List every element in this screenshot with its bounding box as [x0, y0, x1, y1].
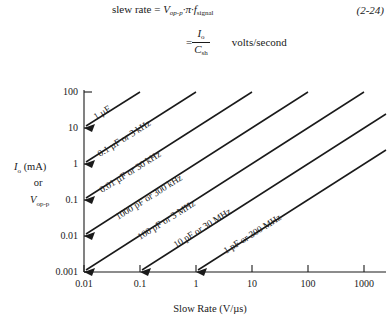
y-axis-ticks [84, 92, 92, 272]
curve-1uF: 1 µF [84, 92, 140, 132]
y-tick-label: 0.01 [61, 230, 79, 241]
voltage-subscript: op-p [170, 9, 183, 17]
x-axis-title: Slow Rate (V/µs) [173, 303, 247, 315]
units-label: volts/second [232, 36, 287, 48]
fraction-numerator: Io [195, 28, 206, 42]
equals-sign-1: = [154, 3, 160, 15]
figure-page: slew rate = Vop-p·π·fsignal = Io Csh vol… [0, 0, 392, 318]
frequency-subscript: signal [197, 9, 214, 17]
equation-line-2: = Io Csh volts/second [186, 28, 287, 57]
y-tick-label: 0.001 [56, 266, 79, 277]
chart-svg: 100 10 1 0.1 0.01 0.001 0.01 0.1 1 10 10… [0, 62, 392, 318]
x-tick-label: 10 [247, 278, 257, 289]
slew-rate-label: slew rate [112, 3, 151, 15]
x-tick-labels: 0.01 0.1 1 10 100 1000 [75, 278, 374, 289]
x-tick-label: 100 [301, 278, 316, 289]
y-axis-title-line-3: Vop-p [30, 194, 50, 208]
y-tick-label: 0.1 [66, 194, 79, 205]
curve-0.1uF: 0.1 µF or 3 kHz [84, 92, 196, 168]
equation-line-1: slew rate = Vop-p·π·fsignal [112, 3, 214, 17]
y-tick-labels: 100 10 1 0.1 0.01 0.001 [56, 86, 79, 277]
pi-factor: ·π· [183, 3, 194, 15]
slew-rate-chart: 100 10 1 0.1 0.01 0.001 0.01 0.1 1 10 10… [0, 62, 392, 318]
curve-label: 0.1 µF or 3 kHz [96, 118, 153, 159]
x-tick-label: 0.01 [75, 278, 93, 289]
current-over-capacitance-fraction: Io Csh [192, 28, 210, 57]
equation-block: slew rate = Vop-p·π·fsignal = Io Csh vol… [0, 0, 392, 62]
curve-10pF: 10 pF or 30 MHz [140, 114, 386, 276]
equation-number: (2-24) [357, 4, 385, 16]
x-tick-label: 1 [194, 278, 199, 289]
y-tick-label: 100 [63, 86, 78, 97]
y-axis-title-line-1: Io (mA) [13, 161, 47, 175]
y-axis-title: Io (mA) or Vop-p [13, 161, 50, 208]
voltage-symbol: V [163, 3, 170, 15]
x-tick-label: 1000 [354, 278, 374, 289]
x-axis-ticks [84, 265, 364, 272]
y-axis-title-line-2: or [34, 177, 43, 188]
curve-label: 1 pF or 300 MHz [222, 212, 283, 255]
y-tick-label: 1 [73, 158, 78, 169]
y-tick-label: 10 [68, 122, 78, 133]
fraction-denominator: Csh [192, 42, 210, 57]
curve-label: 1 µF [92, 104, 112, 122]
x-tick-label: 0.1 [134, 278, 147, 289]
